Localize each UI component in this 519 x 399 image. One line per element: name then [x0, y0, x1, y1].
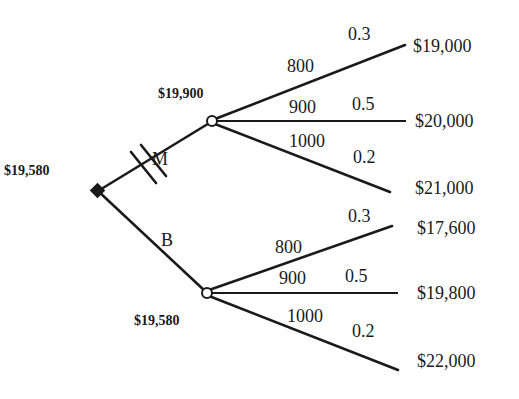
b-outcome-2-payoff: $19,800: [417, 283, 476, 303]
decision-tree: $19,580 $19,900 $19,580 M B 800 0.3 900 …: [0, 0, 519, 399]
m-outcome-2-probability: 0.5: [352, 94, 375, 114]
m-outcome-2-payoff: $20,000: [415, 111, 474, 131]
m-outcome-1-amount: 800: [287, 56, 314, 76]
m-outcome-3-amount: 1000: [289, 131, 325, 151]
m-outcome-1-probability: 0.3: [348, 24, 371, 44]
chance-node-b: [202, 288, 212, 298]
root-value: $19,580: [4, 163, 50, 178]
branch-b-label: B: [161, 230, 173, 250]
branch-m-label: M: [152, 149, 168, 169]
branch-b: [98, 191, 205, 291]
m-node-value: $19,900: [158, 86, 204, 101]
m-outcome-3-payoff: $21,000: [415, 178, 474, 198]
chance-node-m: [207, 116, 217, 126]
m-outcome-3-probability: 0.2: [353, 147, 376, 167]
b-outcome-3-payoff: $22,000: [417, 351, 476, 371]
b-outcome-1-probability: 0.3: [348, 206, 371, 226]
b-outcome-2-amount: 900: [279, 268, 306, 288]
b-node-value: $19,580: [134, 313, 180, 328]
b-outcome-2-probability: 0.5: [345, 266, 368, 286]
m-outcome-1-payoff: $19,000: [413, 36, 472, 56]
b-outcome-3-probability: 0.2: [352, 321, 375, 341]
m-outcome-2-amount: 900: [289, 97, 316, 117]
b-outcome-1-amount: 800: [275, 237, 302, 257]
b-outcome-1-payoff: $17,600: [417, 218, 476, 238]
b-outcome-3-amount: 1000: [287, 306, 323, 326]
